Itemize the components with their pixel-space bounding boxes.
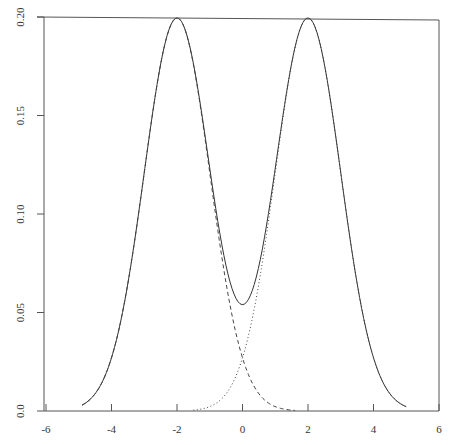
x-tick-label: -2: [172, 423, 181, 435]
plot-frame: [37, 17, 439, 411]
density-plot: 0.00.050.100.150.20 -6-4-20246: [0, 0, 454, 445]
y-tick-label: 0.05: [14, 302, 26, 322]
left-component-dashed-line: [82, 18, 295, 410]
right-component-dotted-line: [193, 18, 406, 410]
x-tick-label: -6: [41, 423, 51, 435]
x-tick-label: 6: [436, 423, 442, 435]
x-axis-tick-labels: -6-4-20246: [41, 423, 442, 435]
x-tick-label: 2: [305, 423, 311, 435]
x-tick-label: 4: [371, 423, 377, 435]
y-tick-label: 0.15: [14, 105, 26, 125]
y-tick-label: 0.10: [14, 204, 26, 224]
y-axis-tick-labels: 0.00.050.100.150.20: [14, 7, 26, 418]
x-tick-label: 0: [240, 423, 246, 435]
y-tick-label: 0.0: [14, 404, 26, 418]
top-border: [37, 17, 439, 20]
x-axis-ticks: [46, 404, 439, 411]
mixture-density-line: [82, 18, 406, 407]
y-axis-ticks: [37, 17, 44, 411]
x-tick-label: -4: [107, 423, 117, 435]
y-tick-label: 0.20: [14, 7, 26, 27]
